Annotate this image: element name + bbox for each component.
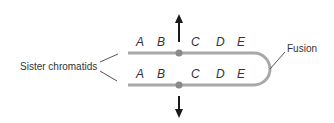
gene-label: E: [237, 35, 245, 49]
leader-line-top: [100, 54, 118, 62]
leader-line-bottom: [100, 71, 117, 81]
fusion-label: Fusion: [287, 43, 317, 54]
gene-label: C: [191, 35, 200, 49]
arrow-up-icon: [175, 14, 183, 42]
gene-label: B: [157, 35, 165, 49]
bottom-centromere: [176, 82, 183, 89]
gene-label: D: [216, 35, 225, 49]
gene-label: E: [237, 67, 245, 81]
leader-line-fusion: [270, 52, 285, 69]
gene-label: C: [191, 67, 200, 81]
gene-label: A: [136, 67, 144, 81]
top-centromere: [176, 50, 183, 57]
gene-label: B: [157, 67, 165, 81]
gene-label: D: [216, 67, 225, 81]
arrow-down-icon: [175, 96, 183, 118]
sister-chromatids-label: Sister chromatids: [20, 61, 97, 72]
gene-label: A: [136, 35, 144, 49]
